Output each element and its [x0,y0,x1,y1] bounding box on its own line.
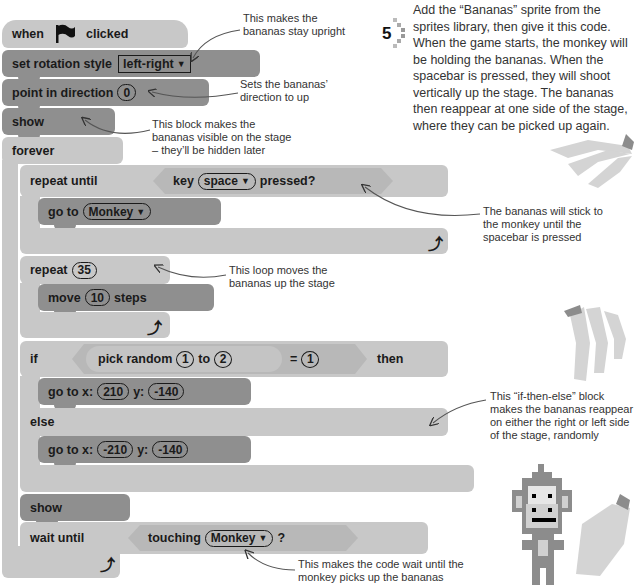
bananas-sprite-image [548,128,636,190]
key-dropdown[interactable]: space▼ [198,173,256,190]
y-label: y: [137,443,148,457]
loop-arrow-icon: ⤴ [428,232,443,253]
annotation-wait: This makes the code wait until the monke… [298,558,468,584]
go-to-xy-block-1[interactable]: go to x: 210 y: -140 [38,378,251,405]
touching-label: touching [148,531,201,545]
step-description: Add the “Bananas” sprite from the sprite… [413,2,635,134]
key-value: space [204,174,238,188]
forever-body-arm [2,160,18,546]
target-value: Monkey [89,205,134,219]
loop-arrow-icon: ⤴ [147,316,162,337]
pick-random-reporter[interactable]: pick random 1 to 2 [86,346,282,372]
annotation-stick: The bananas will stick to the monkey unt… [483,205,603,244]
pressed-label: pressed? [260,174,316,188]
steps-label: steps [114,291,147,305]
rotation-style-dropdown[interactable]: left-right▼ [118,55,191,73]
go-to-xy-label: go to x: [48,385,93,399]
dropdown-arrow-icon: ▼ [177,59,186,69]
repeat-until-arm [20,196,40,232]
show-block-2[interactable]: show [20,494,130,521]
loop-arrow-icon: ⤴ [100,553,115,574]
random-to-input[interactable]: 2 [214,351,232,368]
set-rotation-style-block[interactable]: set rotation style left-right▼ [2,50,260,77]
x-input[interactable]: -210 [97,441,133,458]
repeat-count-input[interactable]: 35 [72,262,97,279]
else-block: else [20,408,448,436]
go-to-xy-label: go to x: [48,443,93,457]
direction-input[interactable]: 0 [117,84,136,101]
move-steps-block[interactable]: move 10 steps [38,284,214,311]
annotation-visible: This block makes the bananas visible on … [152,118,300,157]
key-pressed-condition[interactable]: key space▼ pressed? [153,168,393,194]
move-label: move [48,291,81,305]
else-label: else [30,415,54,429]
go-to-target-dropdown[interactable]: Monkey▼ [83,203,152,220]
touching-condition[interactable]: touching Monkey▼ ? [128,525,358,551]
rotation-style-value: left-right [123,57,174,71]
when-label: when [12,27,44,41]
repeat-arm [20,283,40,313]
point-in-direction-block[interactable]: point in direction 0 [2,79,209,106]
repeat-until-bottom [20,228,448,254]
y-label: y: [133,385,144,399]
forever-label: forever [12,144,54,158]
else-arm [20,435,40,467]
green-flag-icon [54,24,76,44]
y-input[interactable]: -140 [152,441,188,458]
y-input[interactable]: -140 [148,383,184,400]
show-label: show [12,115,44,129]
step-chevron-icon [393,18,407,52]
repeat-block[interactable]: repeat 35 [20,256,170,284]
annotation-upright: This makes the bananas stay upright [243,12,353,38]
move-steps-input[interactable]: 10 [85,289,110,306]
point-direction-label: point in direction [12,86,113,100]
touching-value: Monkey [211,531,256,545]
go-to-monkey-block[interactable]: go to Monkey▼ [38,198,221,225]
show-block[interactable]: show [2,108,115,135]
repeat-label: repeat [30,263,68,277]
dropdown-arrow-icon: ▼ [136,207,145,217]
when-flag-clicked-block[interactable]: when clicked [2,20,188,48]
question-label: ? [277,531,285,545]
annotation-direction: Sets the bananas’ direction to up [240,78,350,104]
step-number: 5 [382,24,391,44]
monkey-sprite-image [512,464,636,585]
wait-until-label: wait until [30,531,84,545]
x-input[interactable]: 210 [97,383,129,400]
dropdown-arrow-icon: ▼ [241,176,250,186]
equals-condition[interactable]: pick random 1 to 2 = 1 [72,344,367,374]
go-to-xy-block-2[interactable]: go to x: -210 y: -140 [38,436,251,463]
clicked-label: clicked [86,27,128,41]
dropdown-arrow-icon: ▼ [258,533,267,543]
random-from-input[interactable]: 1 [176,351,194,368]
show-label: show [30,501,62,515]
key-label: key [173,174,194,188]
bananas-sprite-image-vertical [560,303,636,383]
go-to-label: go to [48,205,79,219]
if-bottom [20,465,474,492]
annotation-loop: This loop moves the bananas up the stage [229,264,339,290]
equals-label: = [290,352,297,366]
if-label: if [30,352,38,366]
repeat-until-label: repeat until [30,174,97,188]
touching-target-dropdown[interactable]: Monkey▼ [205,530,274,547]
annotation-ifelse: This “if-then-else” block makes the bana… [490,390,636,442]
then-label: then [377,353,403,366]
pick-random-label: pick random [98,352,172,366]
if-arm [20,376,40,408]
forever-block[interactable]: forever [2,137,123,164]
set-rotation-label: set rotation style [12,57,112,71]
to-label: to [198,352,210,366]
equals-value-input[interactable]: 1 [301,351,319,368]
